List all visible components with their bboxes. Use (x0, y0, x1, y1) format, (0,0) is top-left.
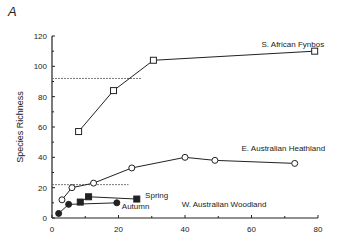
circle-marker (292, 160, 298, 166)
y-tick-label: 0 (43, 214, 48, 223)
y-tick-label: 60 (38, 123, 47, 132)
species-richness-chart: 020406080100120020406080Species Richness… (0, 0, 338, 248)
x-tick-label: 40 (181, 225, 190, 234)
circle-marker (182, 154, 188, 160)
x-tick-label: 20 (114, 225, 123, 234)
circle-marker (59, 197, 65, 203)
series-label: Spring (145, 191, 168, 200)
circle-marker (114, 200, 120, 206)
square-marker (111, 88, 117, 94)
circle-marker (129, 165, 135, 171)
series-label: E. Australian Heathland (242, 144, 326, 153)
circle-marker (212, 157, 218, 163)
series-label: S. African Fynbos (261, 40, 324, 49)
y-tick-label: 40 (38, 153, 47, 162)
circle-marker (91, 180, 97, 186)
square-marker (86, 194, 92, 200)
square-marker (76, 129, 82, 135)
y-axis-label: Species Richness (15, 91, 25, 163)
square-marker (150, 57, 156, 63)
circle-marker (69, 185, 75, 191)
x-tick-label: 0 (50, 225, 55, 234)
y-tick-label: 120 (34, 32, 48, 41)
annotation-label: W. Australian Woodland (182, 200, 267, 209)
y-tick-label: 80 (38, 93, 47, 102)
circle-marker (56, 210, 62, 216)
x-tick-label: 80 (314, 225, 323, 234)
y-tick-label: 100 (34, 62, 48, 71)
series-label: Autumn (122, 202, 150, 211)
square-marker (312, 48, 318, 54)
series-line (62, 157, 295, 199)
circle-marker (66, 201, 72, 207)
y-tick-label: 20 (38, 184, 47, 193)
x-tick-label: 60 (247, 225, 256, 234)
